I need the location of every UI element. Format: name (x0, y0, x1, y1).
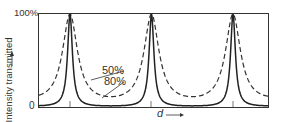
x-arrow-head (180, 113, 184, 117)
annotation-80: 80% (104, 75, 126, 87)
x-axis-label: d (157, 107, 163, 119)
y-tick-0: 0 (29, 100, 35, 111)
y-tick-100: 100% (14, 7, 38, 18)
transmission-chart (0, 0, 282, 122)
x-ticks (70, 101, 233, 107)
